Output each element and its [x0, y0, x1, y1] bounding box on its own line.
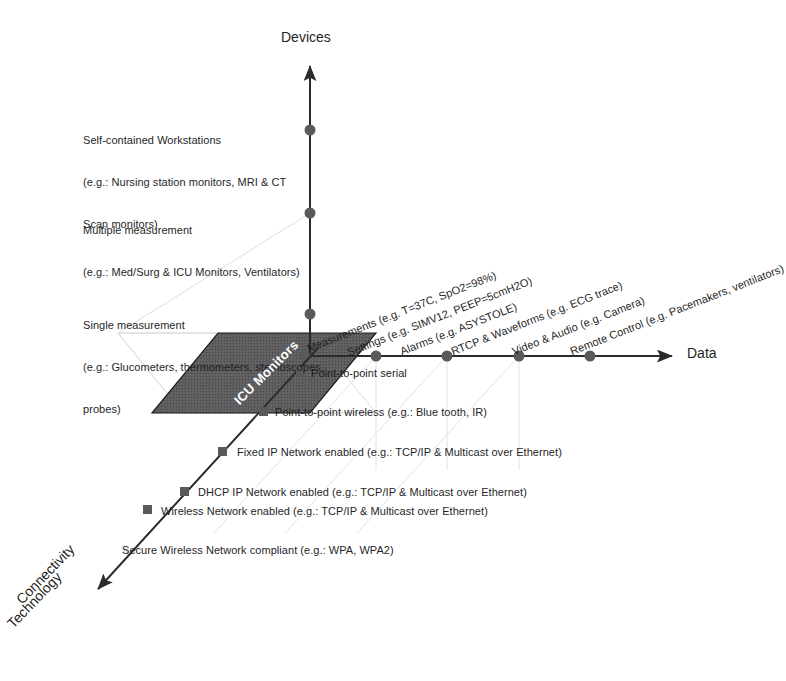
y-tick-label-single-measurement: Single measurement (e.g.: Glucometers, t…: [83, 290, 324, 444]
y-tick-dot-2: [305, 208, 316, 219]
y-tick-line: (e.g.: Med/Surg & ICU Monitors, Ventilat…: [83, 265, 300, 279]
z-tick-label-dhcp-ip-network: DHCP IP Network enabled (e.g.: TCP/IP & …: [198, 485, 527, 499]
z-tick-dot-4: [180, 487, 189, 496]
z-tick-dot-5: [143, 505, 152, 514]
y-tick-line: (e.g.: Nursing station monitors, MRI & C…: [83, 175, 286, 189]
z-tick-label-point-to-point-serial: Point-to-point serial: [311, 366, 407, 380]
y-tick-dot-1: [305, 125, 316, 136]
z-tick-label-wireless-network: Wireless Network enabled (e.g.: TCP/IP &…: [161, 504, 488, 518]
z-tick-label-point-to-point-wireless: Point-to-point wireless (e.g.: Blue toot…: [275, 405, 487, 419]
y-tick-line: Self-contained Workstations: [83, 133, 286, 147]
x-tick-dot-2: [371, 351, 382, 362]
z-tick-label-secure-wireless-network: Secure Wireless Network compliant (e.g.:…: [122, 543, 394, 557]
z-tick-label-fixed-ip-network: Fixed IP Network enabled (e.g.: TCP/IP &…: [237, 445, 562, 459]
y-tick-line: Multiple measurement: [83, 223, 300, 237]
x-axis-title: Data: [687, 345, 717, 361]
y-tick-line: Single measurement: [83, 318, 324, 332]
y-axis-title: Devices: [281, 29, 331, 45]
y-tick-line: (e.g.: Glucometers, thermometers, stetho…: [83, 360, 324, 374]
z-tick-dot-3: [218, 447, 227, 456]
